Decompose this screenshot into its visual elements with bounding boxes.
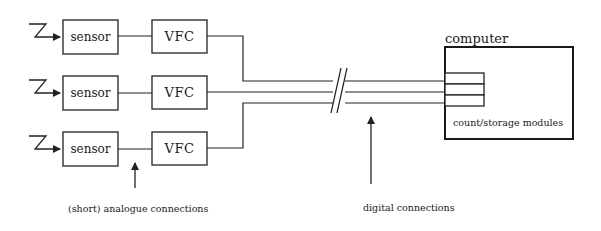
vfc-label: VFC — [164, 141, 195, 156]
block-diagram: sensor VFC sensor VFC sensor VFC — [0, 0, 601, 231]
module-slot — [445, 73, 484, 84]
lightning-input-icon — [29, 24, 60, 37]
computer-block: computer count/storage modules — [445, 31, 573, 139]
module-slot — [445, 84, 484, 95]
lightning-input-icon — [29, 80, 60, 93]
sensor-label: sensor — [70, 142, 110, 156]
count-storage-modules — [445, 73, 484, 106]
channel-row-3: sensor VFC — [29, 103, 445, 166]
vfc-label: VFC — [164, 29, 195, 44]
module-slot — [445, 95, 484, 106]
digital-wire — [207, 36, 445, 81]
lightning-input-icon — [29, 136, 60, 149]
vfc-label: VFC — [164, 85, 195, 100]
channel-row-1: sensor VFC — [29, 20, 445, 81]
modules-label: count/storage modules — [453, 117, 563, 128]
digital-wire — [207, 103, 445, 148]
digital-connections-label: digital connections — [363, 202, 455, 213]
computer-label: computer — [445, 31, 509, 46]
digital-annotation: digital connections — [363, 117, 455, 213]
sensor-label: sensor — [70, 30, 110, 44]
sensor-label: sensor — [70, 86, 110, 100]
analogue-annotation: (short) analogue connections — [68, 163, 208, 214]
analogue-connections-label: (short) analogue connections — [68, 203, 208, 214]
line-break-symbol — [331, 68, 347, 113]
